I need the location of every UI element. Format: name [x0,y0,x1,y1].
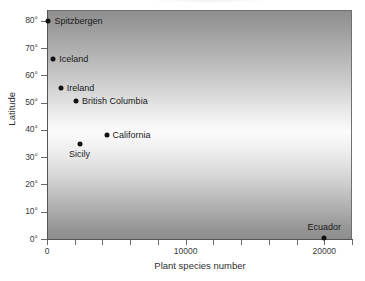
data-point[interactable] [58,85,63,90]
data-point-label: California [113,131,151,140]
y-tick-mark [41,48,47,49]
x-axis-line [47,239,353,240]
x-tick-mark [213,240,214,245]
x-tick-mark [324,240,325,245]
x-tick-label: 20000 [312,247,336,256]
y-tick-mark [41,103,47,104]
data-point[interactable] [74,99,79,104]
x-tick-mark [352,240,353,245]
x-tick-mark [102,240,103,245]
x-tick-mark [75,240,76,245]
data-point[interactable] [46,18,51,23]
data-point[interactable] [51,57,56,62]
y-tick-label: 10° [12,207,38,216]
x-tick-mark [269,240,270,245]
data-point[interactable] [322,235,327,240]
data-point[interactable] [104,133,109,138]
y-axis-title: Latitude [7,79,17,139]
y-tick-mark [41,130,47,131]
y-tick-label: 70° [12,44,38,53]
data-point-label: Iceland [59,55,88,64]
x-tick-label: 0 [45,247,50,256]
y-tick-label: 0° [12,235,38,244]
data-point-label: Ecuador [308,223,342,232]
x-tick-mark [297,240,298,245]
x-tick-mark [241,240,242,245]
y-tick-label: 20° [12,180,38,189]
y-tick-label: 80° [12,16,38,25]
y-tick-label: 30° [12,153,38,162]
x-tick-mark [47,240,48,245]
cropped-title-artifact [150,0,270,2]
y-tick-mark [41,157,47,158]
plot-area [47,10,352,239]
y-tick-mark [41,212,47,213]
x-tick-mark [186,240,187,245]
data-point-label: Sicily [69,150,90,159]
data-point-label: British Columbia [82,97,148,106]
y-tick-mark [41,75,47,76]
y-tick-mark [41,184,47,185]
x-tick-mark [158,240,159,245]
chart-figure: 0°10°20°30°40°50°60°70°80° 01000020000 S… [0,0,365,281]
data-point-label: Ireland [67,83,95,92]
x-tick-mark [130,240,131,245]
data-point-label: Spitzbergen [54,16,102,25]
x-tick-label: 10000 [174,247,198,256]
x-axis-title: Plant species number [47,261,353,271]
data-point[interactable] [77,141,82,146]
y-axis-line [47,10,48,240]
